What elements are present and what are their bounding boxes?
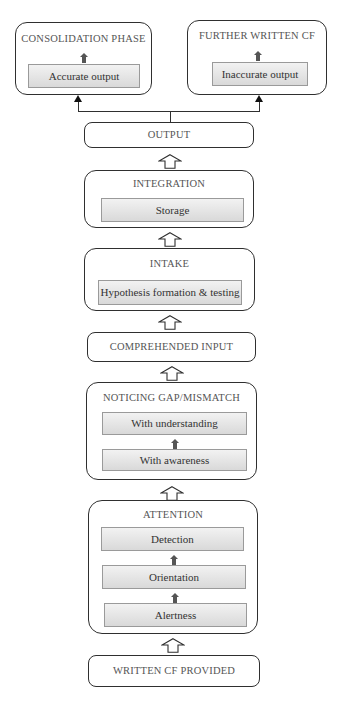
attention-box: ATTENTION Detection Orientation Alertnes… xyxy=(88,500,258,634)
with-awareness-node: With awareness xyxy=(102,449,247,471)
solid-up-arrow-icon xyxy=(170,555,178,565)
noticing-gap-box: NOTICING GAP/MISMATCH With understanding… xyxy=(86,382,257,480)
solid-up-arrow-icon xyxy=(171,593,179,603)
comprehended-input-title: COMPREHENDED INPUT xyxy=(88,341,255,352)
written-cf-provided-box: WRITTEN CF PROVIDED xyxy=(88,655,260,687)
solid-up-arrow-icon xyxy=(171,439,179,449)
hollow-up-arrow-icon xyxy=(160,366,184,381)
orientation-node: Orientation xyxy=(102,565,246,589)
with-understanding-node: With understanding xyxy=(102,412,247,435)
hollow-up-arrow-icon xyxy=(158,315,182,330)
arrowhead-right-icon xyxy=(255,95,263,102)
hypothesis-node: Hypothesis formation & testing xyxy=(98,280,242,305)
comprehended-input-box: COMPREHENDED INPUT xyxy=(87,332,256,362)
further-written-cf-box: FURTHER WRITTEN CF Inaccurate output xyxy=(187,20,327,95)
inaccurate-output-node: Inaccurate output xyxy=(212,62,308,86)
connector-vertical xyxy=(170,111,171,122)
attention-title: ATTENTION xyxy=(89,509,257,520)
noticing-gap-title: NOTICING GAP/MISMATCH xyxy=(87,392,256,403)
hollow-up-arrow-icon xyxy=(160,486,184,501)
detection-node: Detection xyxy=(101,527,244,551)
output-box: OUTPUT xyxy=(84,122,254,148)
accurate-output-node: Accurate output xyxy=(28,64,140,88)
hollow-up-arrow-icon xyxy=(161,638,185,653)
consolidation-phase-title: CONSOLIDATION PHASE xyxy=(16,33,151,44)
connector-horizontal xyxy=(78,111,260,112)
solid-up-arrow-icon xyxy=(254,51,262,61)
written-cf-provided-title: WRITTEN CF PROVIDED xyxy=(89,665,259,676)
solid-up-arrow-icon xyxy=(80,53,88,63)
consolidation-phase-box: CONSOLIDATION PHASE Accurate output xyxy=(15,22,152,95)
integration-title: INTEGRATION xyxy=(85,178,253,189)
hollow-up-arrow-icon xyxy=(158,232,182,247)
intake-box: INTAKE Hypothesis formation & testing xyxy=(84,248,255,311)
further-written-cf-title: FURTHER WRITTEN CF xyxy=(188,30,326,41)
integration-box: INTEGRATION Storage xyxy=(84,170,254,228)
storage-node: Storage xyxy=(101,198,244,222)
hollow-up-arrow-icon xyxy=(158,154,182,169)
intake-title: INTAKE xyxy=(85,258,254,269)
alertness-node: Alertness xyxy=(104,603,247,627)
output-title: OUTPUT xyxy=(85,129,253,140)
arrowhead-left-icon xyxy=(74,95,82,102)
